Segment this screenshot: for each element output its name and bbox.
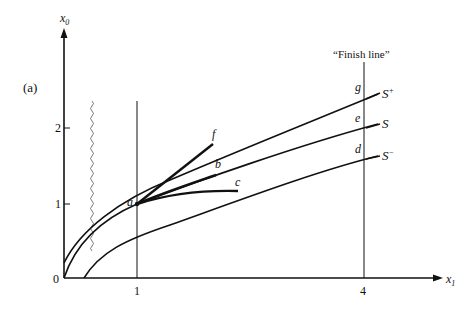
- y-axis-arrow-icon: [61, 28, 68, 38]
- point-label-b: b: [215, 157, 221, 171]
- point-label-f: f: [212, 127, 217, 141]
- finish-line-label: “Finish line”: [333, 48, 390, 60]
- x-axis-arrow-icon: [433, 275, 443, 282]
- curve-label-s-minus: S−: [382, 148, 394, 163]
- y-axis-label: x0: [59, 11, 69, 27]
- origin-label: 0: [53, 272, 59, 286]
- point-label-e: e: [355, 111, 361, 125]
- curve-s: [64, 124, 378, 278]
- point-label-g: g: [355, 80, 361, 94]
- curve-s-minus: [84, 156, 378, 278]
- panel-label: (a): [23, 80, 37, 95]
- point-a-marker: [135, 202, 139, 206]
- diagram: (a) “Finish line” x0 x1 0 1 2 1 4 S+ S S…: [0, 0, 471, 312]
- x-tick-label-4: 4: [360, 284, 366, 298]
- point-label-a: a: [127, 195, 133, 209]
- curve-s-plus: [64, 94, 378, 263]
- point-label-c: c: [235, 175, 241, 189]
- curve-label-s: S: [382, 116, 389, 131]
- y-tick-label-1: 1: [55, 197, 61, 211]
- x-axis-label: x1: [445, 272, 455, 288]
- y-tick-label-2: 2: [55, 121, 61, 135]
- s-plus-leader: [366, 93, 380, 99]
- x-tick-label-1: 1: [134, 284, 140, 298]
- point-label-d: d: [355, 142, 362, 156]
- curve-label-s-plus: S+: [382, 86, 394, 101]
